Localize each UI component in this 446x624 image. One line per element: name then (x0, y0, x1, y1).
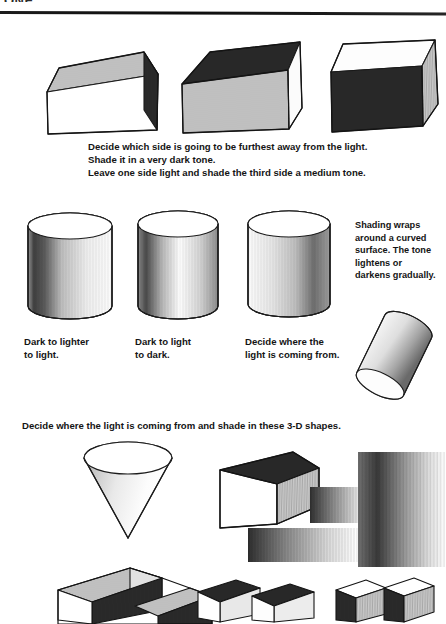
cube-instructions-line-3: Leave one side light and shade the third… (88, 166, 438, 179)
cube-instructions-line-2: Shade it in a very dark tone. (88, 153, 428, 166)
pencil-stroke-swatch-tall (358, 452, 446, 567)
step-block-large (30, 562, 215, 624)
step-block-pair-middle (190, 574, 320, 622)
header-divider (0, 11, 446, 15)
cube-row (40, 22, 446, 137)
pencil-stroke-swatch-small (310, 487, 365, 523)
cylinder-1 (28, 213, 112, 319)
pencil-stroke-swatch-wide (248, 528, 358, 562)
cube-instructions: Decide which side is going to be furthes… (88, 140, 428, 153)
cylinder-2 (138, 211, 218, 319)
cone (70, 440, 200, 550)
cylinder-3 (248, 211, 330, 317)
cylinder-caption-3: Decide where the light is coming from. (245, 335, 375, 361)
cylinder-caption-1: Dark to lighter to light. (24, 335, 134, 361)
cube-1 (47, 52, 158, 134)
curved-surface-note: Shading wraps around a curved surface. T… (355, 219, 446, 282)
exercise-instruction: Decide where the light is coming from an… (22, 419, 422, 432)
cube-2 (182, 42, 302, 133)
page-header-fragment: ONE (4, 0, 34, 2)
step-block-pair-right (330, 576, 440, 622)
cylinder-row (20, 208, 340, 328)
cylinder-caption-2: Dark to light to dark. (135, 335, 245, 361)
cube-3 (331, 40, 438, 132)
